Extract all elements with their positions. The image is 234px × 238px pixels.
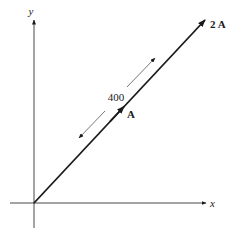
x-axis-label: x	[209, 197, 215, 209]
dimension-label: 400	[108, 91, 125, 103]
vector-2a-label: 2 A	[210, 18, 226, 30]
dimension-arrow-upper	[127, 58, 155, 87]
vector-a-label: A	[127, 108, 135, 120]
y-axis-label: y	[28, 5, 34, 17]
vector-diagram: y x 2 A A 400	[0, 0, 234, 238]
vector-a-arrow	[110, 107, 124, 122]
dimension-arrow-lower	[79, 111, 105, 138]
